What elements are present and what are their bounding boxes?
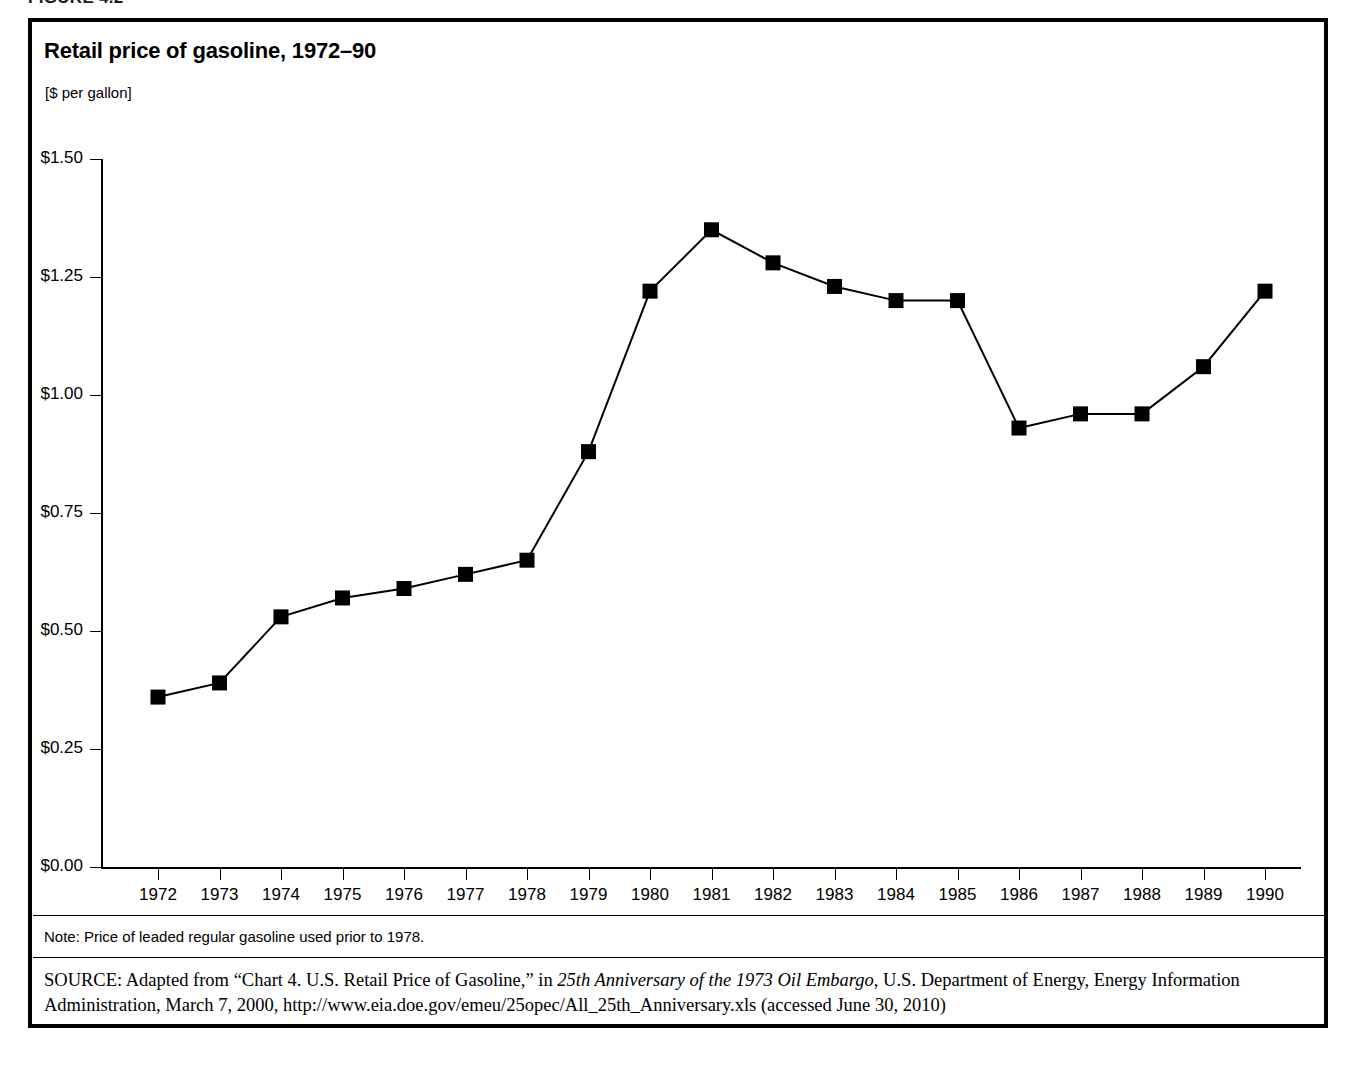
chart-units-label: [$ per gallon] [45,84,132,101]
x-axis-tick-label: 1986 [1000,885,1038,905]
x-axis-tick-label: 1982 [754,885,792,905]
data-point-marker [212,675,227,690]
y-axis-tick: $0.50 [90,631,101,632]
x-axis-tick [466,869,467,880]
data-point-marker [950,293,965,308]
x-axis-tick [1081,869,1082,880]
data-point-marker [766,255,781,270]
data-point-marker [1012,421,1027,436]
chart-source: SOURCE: Adapted from “Chart 4. U.S. Reta… [44,968,1314,1018]
data-point-marker [1258,284,1273,299]
x-axis-tick-label: 1984 [877,885,915,905]
x-axis-tick [1204,869,1205,880]
figure-page: FIGURE 4.2 Retail price of gasoline, 197… [0,0,1356,1067]
y-axis-tick-label: $0.25 [40,738,83,758]
y-axis-tick-label: $1.00 [40,384,83,404]
y-axis-tick: $1.00 [90,395,101,396]
data-point-marker [397,581,412,596]
data-point-marker [827,279,842,294]
x-axis-tick-label: 1973 [201,885,239,905]
y-axis-tick: $1.50 [90,159,101,160]
source-title-italic: 25th Anniversary of the 1973 Oil Embargo [557,970,874,990]
x-axis-tick [281,869,282,880]
chart-plot-area: $0.00$0.25$0.50$0.75$1.00$1.25$1.50 1972… [101,159,1301,869]
x-axis-tick-label: 1985 [939,885,977,905]
note-divider [33,915,1325,916]
x-axis-tick-label: 1980 [631,885,669,905]
x-axis-tick [1142,869,1143,880]
data-point-marker [1196,359,1211,374]
figure-border-inner: Retail price of gasoline, 1972–90 [$ per… [31,21,1325,1025]
x-axis-tick-label: 1974 [262,885,300,905]
x-axis-tick [404,869,405,880]
source-prefix-label: SOURCE: [44,970,122,990]
data-point-marker [151,690,166,705]
x-axis-tick [343,869,344,880]
x-axis-tick [773,869,774,880]
data-point-marker [643,284,658,299]
y-axis-tick: $0.75 [90,513,101,514]
line-series [101,159,1301,869]
x-axis-tick-label: 1972 [139,885,177,905]
page-title: Retail price of gasoline, 1972–90 [44,38,376,64]
x-axis-tick [220,869,221,880]
y-axis-tick-label: $1.25 [40,266,83,286]
data-point-marker [458,567,473,582]
x-axis-tick-label: 1983 [816,885,854,905]
x-axis-tick-label: 1981 [693,885,731,905]
y-axis-tick: $1.25 [90,277,101,278]
y-axis-tick-label: $0.75 [40,502,83,522]
source-divider [33,957,1325,958]
data-point-marker [704,222,719,237]
data-point-marker [581,444,596,459]
x-axis-tick-label: 1975 [324,885,362,905]
figure-number-label: FIGURE 4.2 [28,0,124,6]
x-axis-tick-label: 1979 [570,885,608,905]
x-axis-tick [1019,869,1020,880]
x-axis-tick [1265,869,1266,880]
x-axis-tick-label: 1989 [1185,885,1223,905]
x-axis-tick-label: 1978 [508,885,546,905]
data-point-marker [1073,406,1088,421]
series-line [158,230,1265,697]
data-point-marker [274,609,289,624]
x-axis-tick [650,869,651,880]
x-axis-tick-label: 1988 [1123,885,1161,905]
chart-note: Note: Price of leaded regular gasoline u… [44,928,424,945]
y-axis-tick-label: $0.00 [40,856,83,876]
data-point-marker [1135,406,1150,421]
data-point-marker [335,590,350,605]
x-axis-tick [589,869,590,880]
x-axis-tick-label: 1990 [1246,885,1284,905]
x-axis-tick [958,869,959,880]
figure-border-outer: Retail price of gasoline, 1972–90 [$ per… [28,18,1328,1028]
x-axis-tick [527,869,528,880]
y-axis-tick-label: $0.50 [40,620,83,640]
x-axis-tick-label: 1976 [385,885,423,905]
y-axis-tick: $0.00 [90,867,101,868]
source-text-part-1: Adapted from “Chart 4. U.S. Retail Price… [122,970,557,990]
data-point-marker [889,293,904,308]
x-axis-tick-label: 1987 [1062,885,1100,905]
x-axis-tick-label: 1977 [447,885,485,905]
x-axis-tick [896,869,897,880]
data-point-marker [520,553,535,568]
x-axis-tick [835,869,836,880]
x-axis-tick [712,869,713,880]
y-axis-tick: $0.25 [90,749,101,750]
y-axis-tick-label: $1.50 [40,148,83,168]
x-axis-tick [158,869,159,880]
